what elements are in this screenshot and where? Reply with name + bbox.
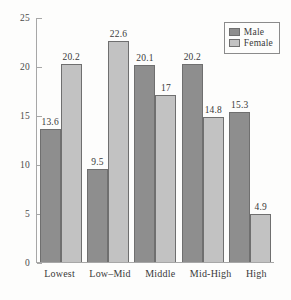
bar-male[interactable]: 20.1 [134,18,155,262]
y-axis-tick-label: 10 [20,160,30,170]
bar-rect-female[interactable] [108,41,129,262]
bar-value-label: 14.8 [205,105,222,115]
bar-group: 20.117 [134,18,176,262]
y-axis-tick [37,263,42,264]
bar-rect-male[interactable] [229,112,250,262]
bar-chart: 0510152025 13.620.29.522.620.11720.214.8… [0,0,291,300]
bar-female[interactable]: 17 [155,18,176,262]
x-axis-category-label-2: Middle [145,268,175,279]
bar-group: 9.522.6 [87,18,129,262]
bar-rect-male[interactable] [134,65,155,262]
bar-rect-male[interactable] [40,129,61,262]
chart-legend: Male Female [224,22,280,54]
legend-swatch-female-icon [229,39,240,47]
y-axis-tick-label: 5 [25,209,30,219]
bar-rect-female[interactable] [203,117,224,262]
y-axis-tick-label: 20 [20,62,30,72]
y-axis-tick-label: 0 [25,258,30,268]
legend-label-female: Female [244,39,273,49]
bar-value-label: 13.6 [41,117,58,127]
legend-swatch-male-icon [229,28,240,36]
bar-rect-female[interactable] [61,64,82,262]
bar-group: 13.620.2 [40,18,82,262]
legend-label-male: Male [244,28,264,38]
x-axis-category-label-0: Lowest [44,268,75,279]
bar-female[interactable]: 4.9 [250,18,271,262]
bar-groups: 13.620.29.522.620.11720.214.815.34.9 [37,18,274,262]
y-axis-tick-label: 15 [20,111,30,121]
x-axis-category-label-3: Mid-High [190,268,232,279]
bar-rect-male[interactable] [182,64,203,262]
y-axis-tick-label: 25 [20,13,30,23]
bar-male[interactable]: 20.2 [182,18,203,262]
bar-female[interactable]: 14.8 [203,18,224,262]
x-axis-category-label-4: High [246,268,267,279]
plot-area: 0510152025 13.620.29.522.620.11720.214.8… [36,18,274,263]
bar-male[interactable]: 9.5 [87,18,108,262]
bar-group: 20.214.8 [182,18,224,262]
legend-item-female: Female [229,39,273,49]
bar-value-label: 20.2 [184,52,201,62]
bar-female[interactable]: 20.2 [61,18,82,262]
bar-group: 15.34.9 [229,18,271,262]
bar-male[interactable]: 13.6 [40,18,61,262]
bar-value-label: 9.5 [91,157,103,167]
bar-rect-male[interactable] [87,169,108,262]
bar-value-label: 15.3 [231,100,248,110]
bar-value-label: 4.9 [255,202,267,212]
bar-value-label: 20.1 [136,53,153,63]
bar-rect-female[interactable] [155,95,176,262]
bar-value-label: 17 [161,83,171,93]
bar-female[interactable]: 22.6 [108,18,129,262]
x-axis-line [36,262,274,263]
bar-value-label: 20.2 [62,52,79,62]
x-axis-category-label-1: Low–Mid [89,268,130,279]
x-axis-category-labels: LowestLow–MidMiddleMid-HighHigh [37,268,274,279]
bar-male[interactable]: 15.3 [229,18,250,262]
legend-item-male: Male [229,28,273,38]
bar-value-label: 22.6 [110,29,127,39]
bar-rect-female[interactable] [250,214,271,262]
